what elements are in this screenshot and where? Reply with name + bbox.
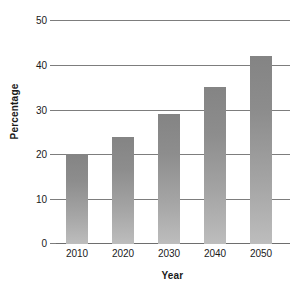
x-axis-title: Year: [55, 270, 290, 281]
y-tick-label-0: 0: [41, 238, 47, 249]
y-tick-label-50: 50: [36, 15, 47, 26]
y-tick-label-20: 20: [36, 149, 47, 160]
x-tick-label-2040: 2040: [192, 248, 238, 259]
x-tick-label-2010: 2010: [54, 248, 100, 259]
y-tick-label-40: 40: [36, 59, 47, 70]
x-tick-label-2030: 2030: [146, 248, 192, 259]
plot-area: 50 40 30 20 10 0 2010: [56, 20, 290, 244]
bar-2010[interactable]: [66, 154, 88, 244]
bar-2040[interactable]: [204, 87, 226, 244]
bar-2050[interactable]: [250, 56, 272, 244]
x-tick-label-2020: 2020: [100, 248, 146, 259]
x-tick-label-2050: 2050: [238, 248, 284, 259]
bar-2030[interactable]: [158, 114, 180, 244]
y-tick-label-10: 10: [36, 194, 47, 205]
bar-2020[interactable]: [112, 137, 134, 245]
bars-group: [56, 20, 290, 244]
y-axis-title: Percentage: [9, 72, 20, 152]
bar-chart: Percentage 50 40 30 20 10 0: [0, 0, 306, 292]
y-tick-label-30: 30: [36, 104, 47, 115]
